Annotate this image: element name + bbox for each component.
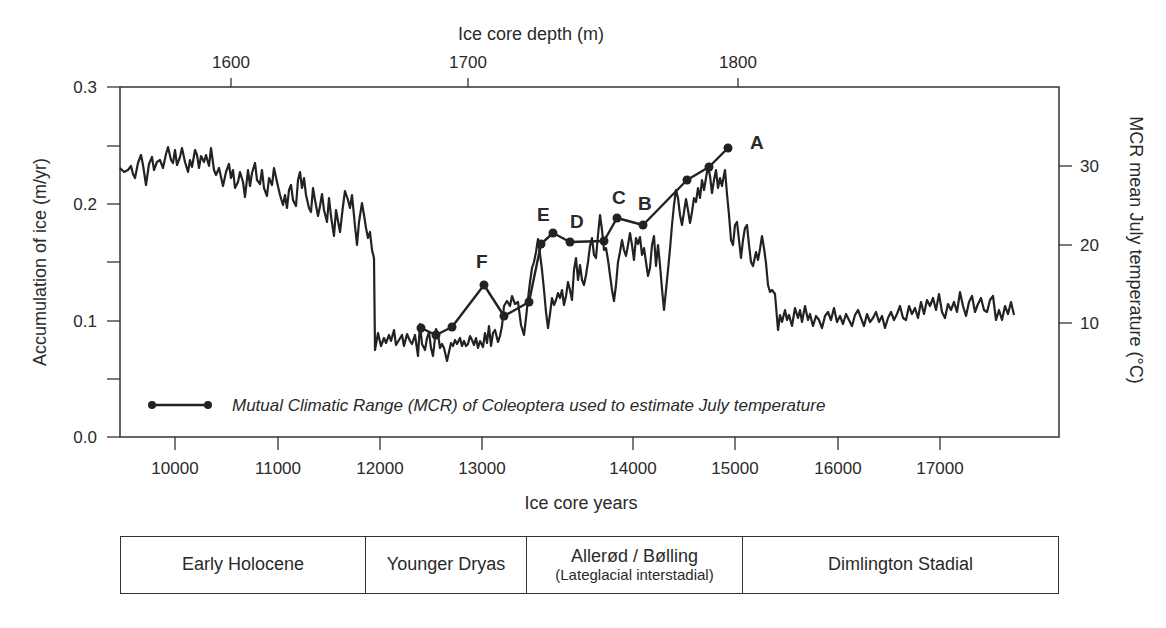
- x-tick-16000: 16000: [814, 459, 861, 478]
- mcr-series: [417, 144, 733, 340]
- x-tick-17000: 17000: [916, 459, 963, 478]
- y-tick-0.3: 0.3: [73, 78, 97, 97]
- point-label-a: A: [750, 132, 764, 153]
- top-axis: 1600 1700 1800 Ice core depth (m): [212, 24, 757, 87]
- y2-tick-30: 30: [1080, 157, 1099, 176]
- right-axis: 30 20 10 MCR mean July temperature (°C): [1059, 116, 1146, 383]
- x-tick-11000: 11000: [255, 459, 301, 478]
- point-label-b: B: [638, 193, 652, 214]
- top-axis-title: Ice core depth (m): [458, 24, 604, 44]
- period-dimlington-stadial: Dimlington Stadial: [743, 537, 1058, 593]
- bottom-axis-title: Ice core years: [524, 493, 637, 513]
- left-axis: 0.3 0.2 0.1 0.0 Accumulation of ice (m/y…: [30, 78, 120, 447]
- top-tick-1700: 1700: [449, 53, 487, 72]
- point-label-d: D: [570, 211, 584, 232]
- period-early-holocene: Early Holocene: [121, 537, 366, 593]
- period-sublabel: (Lateglacial interstadial): [555, 567, 713, 584]
- y2-tick-20: 20: [1080, 236, 1099, 255]
- bottom-axis: 10000 11000 12000 13000 14000 15000 1600…: [151, 437, 963, 513]
- y2-tick-10: 10: [1080, 314, 1099, 333]
- x-tick-12000: 12000: [356, 459, 403, 478]
- x-tick-10000: 10000: [151, 459, 198, 478]
- point-label-f: F: [476, 251, 488, 272]
- y-tick-0.1: 0.1: [73, 312, 97, 331]
- top-tick-1600: 1600: [212, 53, 250, 72]
- period-label: Early Holocene: [182, 555, 304, 575]
- legend: Mutual Climatic Range (MCR) of Coleopter…: [148, 396, 825, 415]
- period-label: Dimlington Stadial: [828, 555, 973, 575]
- period-label: Allerød / Bølling: [571, 547, 698, 567]
- period-younger-dryas: Younger Dryas: [366, 537, 527, 593]
- legend-text: Mutual Climatic Range (MCR) of Coleopter…: [232, 396, 825, 415]
- y-tick-0.0: 0.0: [73, 428, 97, 447]
- x-tick-15000: 15000: [711, 459, 758, 478]
- point-label-c: C: [612, 187, 626, 208]
- right-axis-title: MCR mean July temperature (°C): [1126, 116, 1146, 383]
- y-tick-0.2: 0.2: [73, 195, 97, 214]
- period-bar: Early Holocene Younger Dryas Allerød / B…: [120, 536, 1059, 594]
- chart-canvas: 1600 1700 1800 Ice core depth (m) 0.3 0.…: [0, 0, 1166, 628]
- period-allerod-bolling: Allerød / Bølling (Lateglacial interstad…: [527, 537, 743, 593]
- accumulation-line: [120, 147, 1014, 361]
- plot-frame: [120, 87, 1059, 437]
- period-label: Younger Dryas: [387, 555, 505, 575]
- x-tick-14000: 14000: [609, 459, 656, 478]
- left-axis-title: Accumulation of ice (m/yr): [30, 158, 50, 366]
- point-label-e: E: [537, 204, 550, 225]
- x-tick-13000: 13000: [458, 459, 505, 478]
- top-tick-1800: 1800: [719, 53, 757, 72]
